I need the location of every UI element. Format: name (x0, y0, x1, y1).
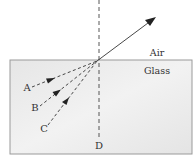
normal-label-d: D (95, 140, 103, 151)
ray-label-c: C (40, 123, 48, 134)
medium-label-glass: Glass (144, 65, 170, 76)
refracted-ray (97, 17, 156, 61)
refraction-diagram: A B C D Air Glass (0, 0, 195, 161)
ray-label-a: A (22, 82, 31, 93)
medium-label-air: Air (149, 47, 165, 58)
ray-label-b: B (31, 102, 38, 113)
arrowhead-icon (145, 17, 156, 26)
